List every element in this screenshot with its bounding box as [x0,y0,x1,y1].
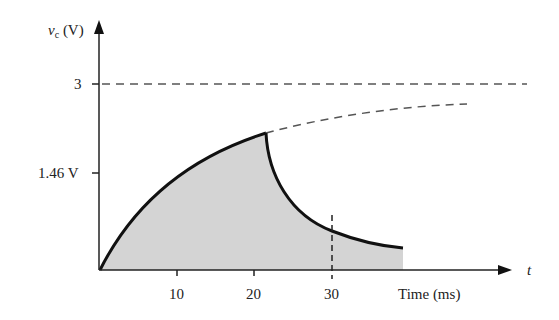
x-axis-label: Time (ms) [398,286,460,303]
x-tick-label-20: 20 [246,286,261,302]
y-axis-label: vc (V) [48,22,84,40]
dashed-continuation-curve [266,104,467,133]
x-tick-label-30: 30 [324,286,339,302]
chart: vc (V) 3 1.46 V 10 20 30 Time (ms) t [0,0,559,320]
shaded-area [100,133,403,270]
x-axis-arrow-icon [498,265,512,275]
x-axis-symbol: t [527,262,532,278]
x-tick-label-10: 10 [169,286,184,302]
y-tick-label-146: 1.46 V [38,165,79,181]
y-axis-arrow-icon [94,20,104,34]
y-tick-label-3: 3 [74,76,82,92]
